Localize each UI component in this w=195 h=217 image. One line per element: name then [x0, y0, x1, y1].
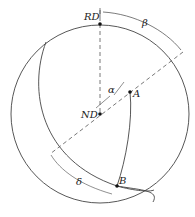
pole-figure-diagram: RD ND A B α β δ [0, 0, 195, 217]
label-rd: RD [83, 11, 100, 22]
label-nd: ND [80, 109, 98, 120]
label-b: B [118, 175, 126, 186]
label-delta: δ [76, 176, 82, 187]
diagonal-dashed-line [50, 52, 183, 154]
arc-a-to-b [117, 92, 131, 186]
delta-arc [51, 155, 112, 194]
point-rd [98, 22, 102, 26]
point-nd [98, 112, 102, 116]
label-alpha: α [108, 84, 115, 95]
point-a [128, 90, 132, 94]
great-circle-arc-left [39, 42, 155, 202]
label-a: A [132, 88, 140, 99]
label-beta: β [141, 17, 148, 28]
